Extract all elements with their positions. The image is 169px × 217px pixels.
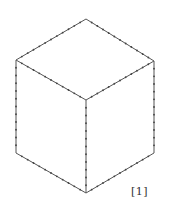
tick-mark [113,175,115,177]
tick-mark [44,169,46,171]
tick-mark [50,79,52,81]
tick-mark [21,155,23,157]
tick-mark [79,96,81,98]
tick-mark [62,86,64,88]
tick-mark [68,28,70,30]
tick-mark [85,161,87,163]
tick-mark [15,106,17,108]
tick-mark [15,121,17,123]
tick-mark [142,53,144,55]
tick-mark [102,89,104,91]
tick-mark [136,70,138,72]
tick-mark [125,76,127,78]
tick-mark [27,66,29,68]
tick-mark [108,179,110,181]
tick-mark [142,159,144,161]
tick-mark [153,121,155,123]
tick-mark [119,39,121,41]
tick-mark [15,144,17,146]
tick-mark [136,50,138,52]
tick-mark [79,22,81,24]
tick-mark [153,91,155,93]
tick-mark [153,144,155,146]
tick-mark [153,75,155,77]
tick-mark [147,155,149,157]
tick-mark [68,89,70,91]
tick-mark [91,96,93,98]
tick-mark [102,182,104,184]
tick-mark [33,162,35,164]
tick-mark [142,67,144,69]
figure-label: [1] [131,185,148,198]
tick-mark [153,83,155,85]
tick-mark [153,106,155,108]
tick-mark [56,35,58,37]
tick-mark [108,32,110,34]
tick-mark [21,56,23,58]
tick-mark [15,129,17,131]
tick-mark [147,63,149,65]
tick-mark [15,67,17,69]
tick-mark [113,36,115,38]
cube-edges [16,19,154,193]
tick-mark [153,68,155,70]
tick-mark [62,179,64,181]
tick-mark [44,42,46,44]
tick-mark [33,69,35,71]
tick-mark [85,130,87,132]
tick-mark [113,83,115,85]
tick-mark [44,76,46,78]
tick-mark [27,159,29,161]
tick-mark [56,82,58,84]
tick-mark [136,162,138,164]
tick-mark [96,25,98,27]
tick-mark [85,169,87,171]
tick-mark [73,25,75,27]
tick-mark [147,57,149,59]
tick-mark [153,98,155,100]
tick-mark [96,185,98,187]
tick-mark [38,165,40,167]
tick-mark [91,22,93,24]
tick-mark [79,189,81,191]
tick-mark [50,39,52,41]
tick-mark [56,175,58,177]
tick-mark [68,182,70,184]
tick-mark [119,172,121,174]
tick-mark [15,137,17,139]
tick-mark [62,32,64,34]
tick-mark [85,122,87,124]
tick-mark [85,115,87,117]
tick-mark [153,137,155,139]
tick-mark [73,185,75,187]
tick-mark [85,146,87,148]
tick-mark [85,138,87,140]
tick-mark [85,153,87,155]
tick-mark [125,169,127,171]
tick-mark [15,75,17,77]
tick-mark [73,92,75,94]
tick-mark [119,80,121,82]
tick-mark [15,82,17,84]
tick-mark [85,184,87,186]
tick-mark [15,98,17,100]
tick-mark [125,43,127,45]
tick-mark [153,129,155,131]
tick-mark [21,62,23,64]
tick-mark [50,172,52,174]
tick-mark [91,189,93,191]
tick-mark [85,177,87,179]
tick-mark [33,49,35,51]
tick-mark [130,73,132,75]
tick-mark [130,46,132,48]
tick-mark [130,165,132,167]
tick-mark [85,107,87,109]
tick-mark [102,29,104,31]
tick-mark [27,52,29,54]
tick-mark [108,86,110,88]
tick-mark [96,93,98,95]
tick-mark [15,113,17,115]
tick-mark [38,72,40,74]
tick-mark [38,45,40,47]
tick-mark [15,90,17,92]
